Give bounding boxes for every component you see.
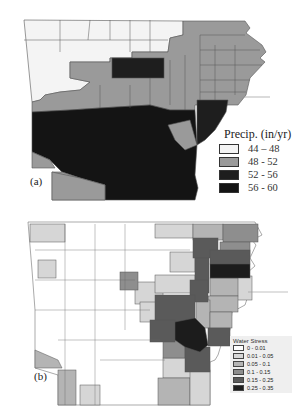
county	[236, 276, 252, 300]
precipitation-legend: Precip. (in/yr) 44 – 48 48 - 52 52 - 56 …	[217, 127, 307, 194]
legend-label: 0.05 - 0.1	[247, 361, 270, 367]
legend-label: 0.15 - 0.25	[247, 377, 273, 383]
county	[193, 224, 223, 240]
legend-swatch	[233, 345, 244, 351]
legend-swatch	[233, 369, 244, 375]
county	[120, 272, 138, 290]
legend-swatch	[219, 144, 239, 154]
legend-label: 0.1 - 0.15	[247, 369, 270, 375]
water-stress-legend: Water Stress 0 - 0.01 0.01 - 0.05 0.05 -…	[230, 336, 292, 393]
legend-row: 0.25 - 0.35	[233, 384, 289, 392]
legend-row: 0.01 - 0.05	[233, 352, 289, 360]
legend-swatch	[233, 377, 244, 383]
legend-label: 48 - 52	[248, 156, 278, 167]
county	[208, 328, 230, 346]
county	[150, 320, 175, 342]
legend-title: Precip. (in/yr)	[224, 127, 307, 142]
legend-label: 56 - 60	[248, 182, 278, 193]
county	[30, 224, 65, 242]
legend-row: 52 - 56	[217, 168, 307, 181]
county	[158, 378, 190, 405]
legend-label: 0 - 0.01	[247, 345, 266, 351]
county	[208, 296, 238, 312]
legend-row: 48 - 52	[217, 155, 307, 168]
legend-swatch	[233, 385, 244, 391]
county	[155, 275, 195, 293]
county-region-dark-north	[112, 58, 164, 78]
legend-row: 0.15 - 0.25	[233, 376, 289, 384]
county	[190, 370, 210, 405]
county	[210, 250, 250, 264]
panel-label-a: (a)	[30, 175, 42, 187]
precipitation-map-panel: (a) Precip. (in/yr) 44 – 48 48 - 52 52 -…	[0, 0, 307, 210]
county	[170, 252, 195, 272]
panel-label-b: (b)	[34, 370, 47, 382]
legend-label: 52 - 56	[248, 169, 278, 180]
county	[210, 278, 238, 296]
legend-label: 0.01 - 0.05	[247, 353, 273, 359]
county	[38, 260, 56, 278]
legend-swatch	[219, 157, 239, 167]
legend-label: 0.25 - 0.35	[247, 385, 273, 391]
legend-swatch	[219, 183, 239, 193]
legend-swatch	[233, 361, 244, 367]
county	[210, 312, 232, 328]
county	[223, 224, 258, 242]
legend-row: 0.05 - 0.1	[233, 360, 289, 368]
legend-row: 0.1 - 0.15	[233, 368, 289, 376]
county	[155, 224, 193, 238]
legend-row: 56 - 60	[217, 181, 307, 194]
legend-row: 0 - 0.01	[233, 344, 289, 352]
legend-swatch	[219, 170, 239, 180]
county	[80, 385, 100, 405]
legend-row: 44 – 48	[217, 142, 307, 155]
county	[210, 264, 250, 278]
legend-label: 44 – 48	[248, 143, 280, 154]
legend-swatch	[233, 353, 244, 359]
county	[58, 370, 76, 405]
